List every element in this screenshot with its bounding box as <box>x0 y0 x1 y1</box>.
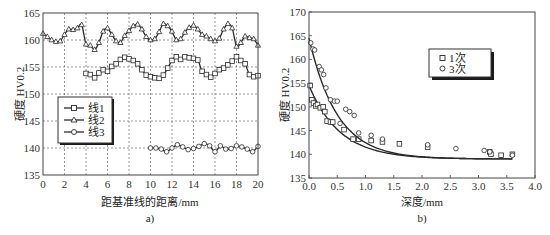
x-tick-label: 18 <box>231 178 243 190</box>
triangle-marker-icon <box>157 29 162 34</box>
y-tick-label: 160 <box>24 34 41 46</box>
triangle-marker-icon <box>105 25 110 30</box>
circle-marker-icon <box>148 146 153 151</box>
svg-text:线2: 线2 <box>88 113 105 126</box>
circle-marker-icon <box>324 86 329 91</box>
circle-marker-icon <box>175 142 180 147</box>
y-tick-label: 150 <box>290 101 307 113</box>
y-tick-label: 135 <box>24 169 41 181</box>
square-marker-icon <box>114 61 119 66</box>
square-marker-icon <box>323 109 328 114</box>
chart-a-legend: 线1 线2 线3 <box>58 97 114 145</box>
circle-marker-icon <box>229 146 234 151</box>
chart-a-x-axis-label: 距基准线的距离/mm <box>101 195 199 208</box>
circle-marker-icon <box>425 143 430 148</box>
circle-marker-icon <box>321 72 326 77</box>
square-marker-icon <box>243 61 248 66</box>
svg-text:线1: 线1 <box>88 101 105 114</box>
square-marker-icon <box>105 69 110 74</box>
y-tick-label: 140 <box>290 148 307 160</box>
svg-text:线3: 线3 <box>88 125 105 138</box>
x-tick-label: 3.0 <box>472 180 486 192</box>
square-marker-icon <box>440 56 445 61</box>
chart-b-legend: 1次 3次 <box>429 49 494 80</box>
triangle-marker-icon <box>83 42 88 47</box>
chart-b-x-axis-label: 深度/mm <box>401 195 444 208</box>
circle-marker-icon <box>164 149 169 154</box>
circle-marker-icon <box>245 147 250 152</box>
circle-marker-icon <box>202 141 207 146</box>
chart-a-y-ticks: 135140145150155160165 <box>24 7 41 181</box>
y-tick-label: 170 <box>290 6 307 18</box>
y-tick-label: 140 <box>24 142 41 154</box>
square-marker-icon <box>499 153 504 158</box>
figure-canvas: 135140145150155160165 02468101214161820 … <box>0 0 550 235</box>
circle-marker-icon <box>154 146 159 151</box>
x-tick-label: 3.5 <box>500 180 514 192</box>
x-tick-label: 1.0 <box>359 180 373 192</box>
x-tick-label: 16 <box>210 178 222 190</box>
square-marker-icon <box>369 138 374 143</box>
circle-marker-icon <box>180 145 185 150</box>
square-marker-icon <box>330 120 335 125</box>
x-tick-label: 10 <box>145 178 157 190</box>
triangle-marker-icon <box>230 25 235 30</box>
x-tick-label: 12 <box>167 178 178 190</box>
circle-marker-icon <box>482 148 487 153</box>
circle-marker-icon <box>338 121 343 126</box>
circle-marker-icon <box>213 149 218 154</box>
x-tick-label: 4.0 <box>528 180 542 192</box>
circle-marker-icon <box>440 66 445 71</box>
series-线1 <box>84 54 261 80</box>
circle-marker-icon <box>223 147 228 152</box>
circle-marker-icon <box>186 147 191 152</box>
circle-marker-icon <box>369 133 374 138</box>
circle-marker-icon <box>72 130 77 135</box>
x-tick-label: 2.0 <box>415 180 429 192</box>
y-tick-label: 165 <box>24 7 41 19</box>
y-tick-label: 145 <box>290 125 307 137</box>
square-marker-icon <box>135 61 140 66</box>
circle-marker-icon <box>191 146 196 151</box>
circle-marker-icon <box>170 146 175 151</box>
chart-b-y-axis-label: 硬度 HV0.2 <box>278 68 291 122</box>
x-tick-label: 20 <box>253 178 265 190</box>
square-marker-icon <box>342 127 347 132</box>
circle-marker-icon <box>454 146 459 151</box>
circle-marker-icon <box>240 145 245 150</box>
circle-marker-icon <box>250 149 255 154</box>
circle-marker-icon <box>347 109 352 114</box>
circle-marker-icon <box>335 99 340 104</box>
circle-marker-icon <box>356 131 361 136</box>
triangle-marker-icon <box>191 23 196 28</box>
square-marker-icon <box>140 67 145 72</box>
y-tick-label: 145 <box>24 115 41 127</box>
y-tick-label: 155 <box>290 77 307 89</box>
x-tick-label: 4 <box>83 178 89 190</box>
circle-marker-icon <box>352 113 357 118</box>
x-tick-label: 2 <box>62 178 68 190</box>
triangle-marker-icon <box>225 21 230 26</box>
circle-marker-icon <box>488 150 493 155</box>
svg-text:3次: 3次 <box>449 62 466 75</box>
x-tick-label: 2.5 <box>443 180 457 192</box>
circle-marker-icon <box>197 144 202 149</box>
square-marker-icon <box>196 58 201 63</box>
square-marker-icon <box>321 105 326 110</box>
x-tick-label: 14 <box>188 178 200 190</box>
square-marker-icon <box>351 137 356 142</box>
chart-a-caption: a) <box>146 212 155 225</box>
square-marker-icon <box>161 73 166 78</box>
circle-marker-icon <box>207 144 212 149</box>
square-marker-icon <box>72 106 77 111</box>
x-tick-label: 0.5 <box>330 180 344 192</box>
triangle-marker-icon <box>96 40 101 45</box>
chart-a-x-ticks: 02468101214161820 <box>40 178 264 190</box>
circle-marker-icon <box>319 68 324 73</box>
x-tick-label: 0.0 <box>302 180 316 192</box>
circle-marker-icon <box>218 144 223 149</box>
circle-marker-icon <box>312 48 317 53</box>
chart-b: 135140145150155160165170 0.00.51.01.52.0… <box>278 6 542 225</box>
square-marker-icon <box>397 142 402 147</box>
circle-marker-icon <box>380 137 385 142</box>
